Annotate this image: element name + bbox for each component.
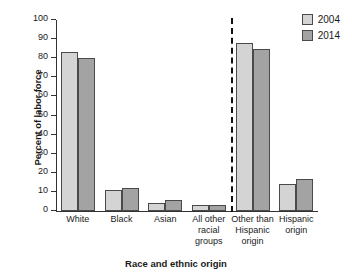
y-axis-tick: 10 [51, 191, 56, 192]
x-axis-title: Race and ethnic origin [0, 258, 352, 269]
y-axis-tick-label: 10 [38, 185, 48, 195]
x-axis-tick-label-line: origin [264, 225, 328, 236]
y-axis-line [56, 20, 57, 212]
legend: 20042014 [302, 14, 340, 46]
y-axis-tick-label: 70 [38, 70, 48, 80]
category-divider-dashed-line [231, 18, 233, 212]
legend-label: 2014 [318, 30, 340, 41]
bar [122, 188, 139, 211]
bar [61, 52, 78, 211]
bar [78, 58, 95, 211]
y-axis-tick-label: 20 [38, 166, 48, 176]
bar-group [105, 20, 139, 211]
bar [279, 184, 296, 211]
y-axis-tick: 50 [51, 115, 56, 116]
y-axis-tick: 80 [51, 57, 56, 58]
y-axis-tick: 70 [51, 76, 56, 77]
bar [165, 200, 182, 211]
legend-item: 2004 [302, 14, 340, 25]
y-axis-tick-label: 100 [33, 13, 48, 23]
y-axis-tick: 20 [51, 172, 56, 173]
x-axis-tick-label-line: origin [221, 236, 285, 247]
bar-group [236, 20, 270, 211]
y-axis-tick-label: 80 [38, 51, 48, 61]
legend-label: 2004 [318, 14, 340, 25]
bar-group [148, 20, 182, 211]
bar [253, 49, 270, 211]
bar [209, 205, 226, 211]
x-axis-tick-label: Hispanicorigin [264, 214, 328, 236]
bar [192, 205, 209, 211]
bar [296, 179, 313, 211]
bar-group [192, 20, 226, 211]
y-axis-tick-label: 30 [38, 147, 48, 157]
bar-group [61, 20, 95, 211]
y-axis-tick-label: 90 [38, 32, 48, 42]
y-axis-tick: 40 [51, 134, 56, 135]
bar [236, 43, 253, 211]
y-axis-tick-label: 50 [38, 109, 48, 119]
x-axis-tick-label-line: Hispanic [264, 214, 328, 225]
legend-swatch [302, 14, 313, 25]
legend-item: 2014 [302, 30, 340, 41]
bar [148, 203, 165, 211]
y-axis-tick: 30 [51, 153, 56, 154]
y-axis-tick: 100 [51, 19, 56, 20]
y-axis-tick-label: 40 [38, 128, 48, 138]
legend-swatch [302, 30, 313, 41]
y-axis-tick-label: 0 [43, 204, 48, 214]
plot-area: 0102030405060708090100 WhiteBlackAsianAl… [56, 20, 318, 212]
y-axis-tick: 90 [51, 38, 56, 39]
bar-group [279, 20, 313, 211]
y-axis-tick-label: 60 [38, 89, 48, 99]
bar [105, 190, 122, 211]
bar-chart-figure: Percent of labor force 01020304050607080… [0, 0, 352, 280]
y-axis-tick: 60 [51, 95, 56, 96]
y-axis-tick: 0 [51, 210, 56, 211]
x-axis-line [56, 211, 318, 212]
